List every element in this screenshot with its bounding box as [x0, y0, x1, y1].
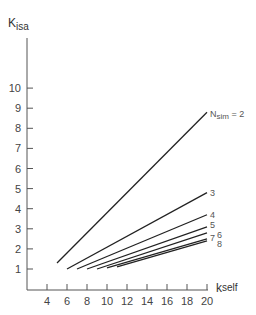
series-label: Nsim = 2	[210, 109, 244, 121]
y-tick-label: 10	[9, 82, 21, 94]
y-tick-label: 2	[15, 243, 21, 255]
line-chart: 12345678910468101214161820KisakselfNsim …	[0, 0, 256, 315]
x-tick-label: 14	[141, 295, 153, 307]
y-axis-title: Kisa	[8, 16, 29, 32]
series-label: 3	[210, 188, 215, 198]
y-tick-label: 9	[15, 102, 21, 114]
x-tick-label: 6	[64, 295, 70, 307]
x-tick-label: 16	[161, 295, 173, 307]
y-tick-label: 4	[15, 203, 21, 215]
y-tick-label: 1	[15, 263, 21, 275]
x-tick-label: 12	[121, 295, 133, 307]
y-tick-label: 8	[15, 122, 21, 134]
series-label: 4	[210, 210, 215, 220]
series-label: 5	[210, 220, 215, 230]
y-tick-label: 6	[15, 163, 21, 175]
y-tick-label: 7	[15, 142, 21, 154]
x-tick-label: 10	[101, 295, 113, 307]
x-tick-label: 8	[84, 295, 90, 307]
y-tick-label: 5	[15, 183, 21, 195]
x-tick-label: 20	[201, 295, 213, 307]
series-label: 7	[210, 233, 215, 243]
x-tick-label: 18	[181, 295, 193, 307]
series-line	[107, 239, 207, 268]
series-line	[67, 193, 207, 269]
x-tick-label: 4	[44, 295, 50, 307]
y-tick-label: 3	[15, 223, 21, 235]
series-label: 8	[217, 239, 222, 249]
x-axis-title: kself	[216, 281, 238, 295]
